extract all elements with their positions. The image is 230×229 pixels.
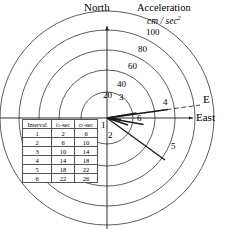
cell-t2: 22 (75, 165, 98, 174)
table-header-t2: t2-sec (75, 120, 98, 129)
cell-interval: 3 (23, 147, 52, 156)
cell-t1: 22 (52, 174, 75, 183)
polar-acceleration-figure: North East E Acceleration cm / sec2 20 4… (0, 0, 230, 229)
cell-interval: 1 (23, 129, 52, 138)
cell-interval: 5 (23, 165, 52, 174)
table-header-row: Interval t1-sec t2-sec (23, 120, 98, 129)
cell-t1: 2 (52, 129, 75, 138)
table-row: 2 6 10 (23, 138, 98, 147)
cell-t1: 10 (52, 147, 75, 156)
ring-label-80: 80 (138, 45, 147, 54)
ring-label-100: 100 (146, 28, 160, 37)
vector-label-5: 5 (171, 142, 176, 151)
vector-label-6: 6 (137, 114, 142, 123)
table-row: 5 18 22 (23, 165, 98, 174)
cell-t2: 10 (75, 138, 98, 147)
cell-interval: 6 (23, 174, 52, 183)
vector-5 (107, 118, 165, 160)
cell-t1: 14 (52, 156, 75, 165)
table-row: 3 10 14 (23, 147, 98, 156)
cell-t2: 26 (75, 174, 98, 183)
figure-units: cm / sec2 (147, 15, 181, 27)
cell-interval: 2 (23, 138, 52, 147)
cell-t1: 6 (52, 138, 75, 147)
vector-label-4: 4 (163, 98, 168, 107)
figure-title: Acceleration (137, 3, 191, 14)
cell-t1: 18 (52, 165, 75, 174)
north-axis-label: North (84, 2, 110, 13)
east-axis-label: East (196, 112, 215, 123)
ring-label-40: 40 (117, 80, 126, 89)
table-header-interval: Interval (23, 120, 52, 129)
vector-label-2: 2 (108, 131, 113, 140)
vector-label-1: 1 (101, 121, 106, 130)
cell-interval: 4 (23, 156, 52, 165)
e-reference-label: E (203, 94, 210, 105)
t2-tail: -sec (83, 121, 93, 128)
units-text: cm / sec (147, 16, 178, 26)
table-row: 1 2 6 (23, 129, 98, 138)
cell-t2: 18 (75, 156, 98, 165)
cell-t2: 14 (75, 147, 98, 156)
units-exponent: 2 (178, 14, 181, 21)
interval-table: Interval t1-sec t2-sec 1 2 6 2 6 10 3 10… (22, 119, 98, 183)
ring-label-20: 20 (103, 91, 112, 100)
table-row: 6 22 26 (23, 174, 98, 183)
ring-label-60: 60 (128, 62, 137, 71)
table-header-t1: t1-sec (52, 120, 75, 129)
cell-t2: 6 (75, 129, 98, 138)
table-row: 4 14 18 (23, 156, 98, 165)
vector-label-3: 3 (119, 93, 124, 102)
t1-tail: -sec (60, 121, 70, 128)
